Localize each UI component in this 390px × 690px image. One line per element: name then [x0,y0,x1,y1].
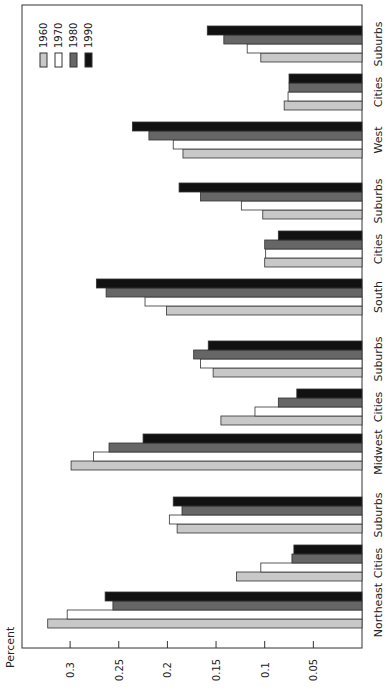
bar-cities-1960 [265,258,362,267]
bar-northeast-1970 [67,610,362,619]
bar-northeast-1990 [105,592,362,601]
bar-northeast-1980 [113,601,362,610]
bar-cities-1970 [266,249,362,258]
tick-label: 0.1 [260,662,271,678]
bar-suburbs-1970 [241,201,362,210]
bar-suburbs-1970 [200,359,362,368]
bar-suburbs-1970 [247,44,362,53]
category-label: Cities [372,76,385,107]
legend-label-1980: 1980 [68,23,79,48]
bar-northeast-1960 [48,619,362,628]
bar-cities-1990 [278,231,362,240]
bar-suburbs-1980 [200,192,362,201]
bar-cities-1970 [261,563,362,572]
legend-swatch-1960 [40,53,47,67]
bar-suburbs-1990 [173,497,362,506]
category-label: Suburbs [372,336,385,381]
bar-cities-1990 [294,545,362,554]
bar-chart: 0.050.10.150.20.250.3 NortheastCitiesSub… [0,0,390,690]
tick-label: 0.15 [211,659,222,681]
bar-suburbs-1970 [169,515,362,524]
bar-midwest-1970 [93,452,362,461]
category-label: South [372,281,385,313]
category-label: Suburbs [372,492,385,537]
tick-label: 0.2 [162,662,173,678]
bar-suburbs-1960 [263,210,362,219]
category-label: Midwest [372,429,385,475]
bar-west-1980 [149,131,362,140]
bar-cities-1980 [292,554,362,563]
legend-label-1970: 1970 [53,23,64,48]
legend-swatch-1980 [70,53,77,67]
bar-cities-1980 [289,83,362,92]
category-label: Northeast [372,582,385,637]
category-label: Cities [372,391,385,422]
category-label: Cities [372,233,385,264]
category-label: West [372,126,385,154]
bar-midwest-1960 [71,461,362,470]
legend-label-1990: 1990 [83,23,94,48]
bar-suburbs-1980 [224,35,362,44]
bar-south-1990 [96,279,362,288]
tick-label: 0.3 [65,662,76,678]
bar-south-1970 [145,297,362,306]
bar-cities-1960 [221,416,362,425]
bar-suburbs-1980 [182,506,362,515]
bar-west-1970 [173,140,362,149]
bar-midwest-1980 [109,443,362,452]
category-labels: NortheastCitiesSuburbsMidwestCitiesSubur… [372,21,385,637]
y-axis-title: Percent [4,626,17,668]
legend-swatch-1970 [55,53,62,67]
bar-cities-1960 [236,572,362,581]
tick-label: 0.25 [114,659,125,681]
legend-label-1960: 1960 [38,23,49,48]
bar-west-1960 [183,149,362,158]
category-label: Suburbs [372,178,385,223]
bar-suburbs-1990 [207,26,362,35]
category-label: Suburbs [372,21,385,66]
bar-cities-1960 [284,101,362,110]
bar-cities-1990 [297,389,362,398]
bar-suburbs-1960 [213,368,362,377]
bar-suburbs-1990 [179,183,362,192]
bar-south-1960 [166,306,362,315]
bar-suburbs-1990 [208,341,362,350]
bar-cities-1970 [288,92,362,101]
bar-cities-1970 [255,407,362,416]
bar-midwest-1990 [143,434,362,443]
bar-suburbs-1980 [194,350,362,359]
bar-suburbs-1960 [177,524,362,533]
bar-suburbs-1960 [261,53,362,62]
category-label: Cities [372,547,385,578]
bar-cities-1980 [265,240,362,249]
tick-label: 0.05 [308,659,319,681]
bar-cities-1980 [278,398,362,407]
bar-south-1980 [106,288,362,297]
bar-cities-1990 [289,74,362,83]
bar-west-1990 [132,122,362,131]
legend-swatch-1990 [85,53,92,67]
